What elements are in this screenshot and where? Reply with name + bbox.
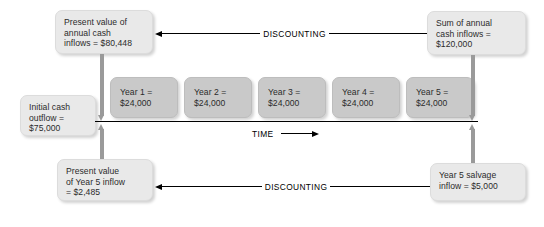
time-label: TIME <box>252 129 274 139</box>
year-box-4: Year 4 = $24,000 <box>332 77 400 118</box>
arrow-left-icon <box>155 31 162 37</box>
timeline-axis <box>95 121 478 122</box>
initial-outflow-line-1: Initial cash <box>29 102 87 113</box>
year-3-amount: $24,000 <box>268 98 325 109</box>
sum-annual-inflows-box: Sum of annual cash inflows = $120,000 <box>427 11 526 55</box>
initial-cash-outflow-box: Initial cash outflow = $75,000 <box>20 95 96 136</box>
connector-rule-left <box>162 186 262 187</box>
year-box-5: Year 5 = $24,000 <box>406 77 474 118</box>
year-4-label: Year 4 = <box>342 87 399 98</box>
present-value-year5-inflow-box: Present value of Year 5 inflow = $2,485 <box>57 159 153 201</box>
discounting-connector-top: DISCOUNTING <box>155 28 427 39</box>
discounting-bottom-label: DISCOUNTING <box>262 182 330 192</box>
year-1-label: Year 1 = <box>120 87 177 98</box>
initial-outflow-line-3: $75,000 <box>29 123 87 134</box>
year-box-2: Year 2 = $24,000 <box>184 77 252 118</box>
sum-annual-line-2: cash inflows = <box>436 29 517 40</box>
discounting-top-label: DISCOUNTING <box>260 29 328 39</box>
year-5-amount: $24,000 <box>416 98 473 109</box>
year5-salvage-inflow-box: Year 5 salvage inflow = $5,000 <box>430 163 526 201</box>
year-box-3: Year 3 = $24,000 <box>258 77 326 118</box>
year-1-amount: $24,000 <box>120 98 177 109</box>
connector-rule-right <box>329 33 427 34</box>
connector-rule-right <box>330 186 430 187</box>
year-2-label: Year 2 = <box>194 87 251 98</box>
connector-rule-left <box>162 33 260 34</box>
arrow-right-icon <box>281 130 319 137</box>
pv-annual-line-2: annual cash <box>64 28 144 39</box>
salvage-line-2: inflow = $5,000 <box>439 181 517 192</box>
present-value-annual-inflows-box: Present value of annual cash inflows = $… <box>55 10 153 54</box>
year-3-label: Year 3 = <box>268 87 325 98</box>
arrow-up-icon-year5-present-value <box>98 124 105 161</box>
year-box-1: Year 1 = $24,000 <box>110 77 178 118</box>
year-2-amount: $24,000 <box>194 98 251 109</box>
sum-annual-line-3: $120,000 <box>436 39 517 50</box>
year-cashflow-row: Year 1 = $24,000 Year 2 = $24,000 Year 3… <box>110 77 472 118</box>
time-direction-marker: TIME <box>252 128 319 139</box>
sum-annual-line-1: Sum of annual <box>436 18 517 29</box>
pv-annual-line-3: inflows = $80,448 <box>64 38 144 49</box>
arrow-down-icon-sum-inflows <box>469 55 476 121</box>
arrow-left-icon <box>155 184 162 190</box>
pv-year5-line-1: Present value <box>66 166 144 177</box>
pv-year5-line-2: of Year 5 inflow <box>66 177 144 188</box>
initial-outflow-line-2: outflow = <box>29 113 87 124</box>
year-5-label: Year 5 = <box>416 87 473 98</box>
discounted-cash-flow-diagram: Present value of annual cash inflows = $… <box>0 0 544 227</box>
discounting-connector-bottom: DISCOUNTING <box>155 181 430 192</box>
arrow-up-icon-salvage <box>469 124 476 165</box>
pv-year5-line-3: = $2,485 <box>66 187 144 198</box>
arrow-down-icon-present-value <box>98 54 105 121</box>
year-4-amount: $24,000 <box>342 98 399 109</box>
pv-annual-line-1: Present value of <box>64 17 144 28</box>
salvage-line-1: Year 5 salvage <box>439 170 517 181</box>
